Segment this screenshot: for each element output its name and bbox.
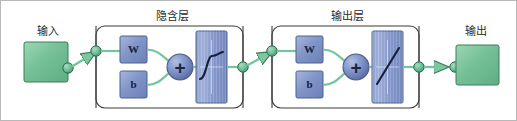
- hidden-layer-title: 隐含层: [156, 9, 189, 23]
- input-group: 输入: [24, 24, 73, 82]
- hidden-weight-label: W: [128, 43, 139, 55]
- output-layer-output-node: [414, 62, 424, 72]
- hidden-sum-label: +: [174, 57, 185, 78]
- hidden-layer-group: 隐含层 W b +: [91, 9, 248, 108]
- neural-network-diagram: 输入 隐含层 W b +: [0, 0, 517, 121]
- input-output-node: [63, 63, 73, 73]
- hidden-layer-input-node: [91, 46, 101, 56]
- output-weight-label: W: [304, 43, 315, 55]
- diagram-canvas: 输入 隐含层 W b +: [0, 0, 517, 121]
- connector-output-bias-to-sum: [323, 72, 346, 85]
- connector-line: [72, 53, 95, 67]
- connector-hidden-bias-to-sum: [147, 72, 170, 85]
- output-group: 输出: [450, 24, 499, 85]
- connector-output-weight-to-sum: [323, 50, 346, 63]
- output-bias-label: b: [306, 78, 312, 90]
- output-label: 输出: [465, 24, 487, 38]
- input-block: [24, 42, 68, 82]
- connector-hidden-weight-to-sum: [147, 50, 170, 63]
- output-layer-group: 输出层 W b +: [267, 9, 424, 108]
- input-label: 输入: [37, 24, 59, 38]
- output-layer-title: 输出层: [331, 9, 364, 23]
- output-block: [456, 45, 499, 85]
- connector-input-to-hidden: [72, 53, 95, 67]
- connector-hidden-to-output: [247, 53, 271, 66]
- output-sum-label: +: [350, 57, 361, 78]
- hidden-bias-label: b: [130, 78, 136, 90]
- connector-line: [247, 53, 271, 66]
- output-layer-input-node: [267, 46, 277, 56]
- hidden-layer-output-node: [238, 62, 248, 72]
